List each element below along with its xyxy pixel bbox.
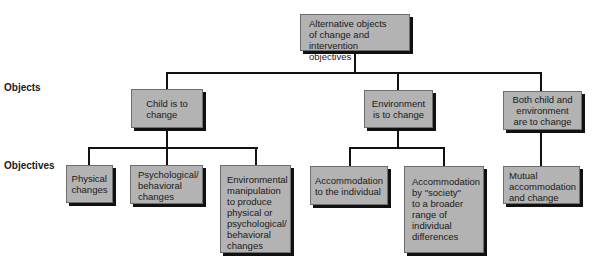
objective-box-environmental-manipulation: Environmental manipulation to produce ph… [220, 165, 291, 253]
connector-env-down [397, 128, 399, 149]
objective-label: Mutual accommodation and change [509, 170, 574, 203]
object-label: Child is to change [146, 98, 188, 120]
row-label-objectives: Objectives [4, 160, 55, 171]
connector-child-bar [88, 147, 258, 149]
object-box-both: Both child and environment are to change [503, 91, 582, 130]
objective-label: Accommodation to the individual [315, 175, 383, 197]
objective-box-psychological: Psychological/ behavioral changes [130, 165, 203, 204]
connector-physical-up [88, 147, 90, 165]
root-box: Alternative objects of change and interv… [300, 14, 410, 51]
row-label-objects: Objects [4, 82, 41, 93]
objective-box-mutual: Mutual accommodation and change [503, 166, 580, 204]
connector-accom-up [349, 147, 351, 166]
objective-box-physical: Physical changes [66, 165, 113, 203]
object-label: Both child and environment are to change [512, 94, 572, 127]
connector-objects-bar [166, 72, 542, 74]
connector-env-up [397, 72, 399, 90]
connector-both-down [540, 130, 542, 166]
objective-label: Accommodation by "society" to a broader … [412, 176, 476, 242]
objective-label: Psychological/ behavioral changes [138, 169, 195, 202]
connector-env-bar [349, 147, 445, 149]
root-label: Alternative objects of change and interv… [309, 18, 401, 62]
object-label: Environment is to change [372, 98, 425, 120]
object-box-child: Child is to change [131, 89, 203, 128]
connector-child-down [166, 128, 168, 149]
connector-both-up [540, 72, 542, 91]
connector-child-up [166, 72, 168, 89]
objective-label: Physical changes [72, 173, 108, 195]
object-box-environment: Environment is to change [364, 90, 433, 128]
connector-envmanip-up [255, 147, 257, 165]
objective-label: Environmental manipulation to produce ph… [227, 174, 284, 251]
connector-society-up [443, 147, 445, 166]
objective-box-accommodation-individual: Accommodation to the individual [310, 166, 388, 205]
connector-psych-up [166, 147, 168, 165]
objective-box-accommodation-society: Accommodation by "society" to a broader … [404, 166, 484, 253]
